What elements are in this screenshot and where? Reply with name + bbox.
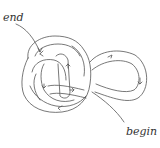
strand-1 bbox=[35, 44, 80, 56]
end-leader-arrowhead bbox=[38, 48, 42, 52]
arrow-2 bbox=[66, 64, 70, 68]
strand-2 bbox=[32, 60, 66, 81]
strand-6 bbox=[48, 85, 84, 90]
knot-diagram: end begin bbox=[0, 0, 160, 148]
strand-4 bbox=[56, 54, 70, 98]
strand-9 bbox=[72, 46, 85, 76]
end-label: end bbox=[3, 12, 24, 23]
arrow-4 bbox=[70, 88, 74, 92]
right-loop-outer bbox=[90, 51, 147, 101]
right-loop-inner bbox=[92, 61, 139, 92]
end-leader-line bbox=[16, 24, 40, 52]
begin-label: begin bbox=[126, 126, 157, 137]
arrow-5 bbox=[108, 55, 112, 58]
